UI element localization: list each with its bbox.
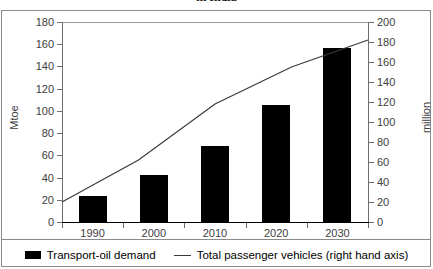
- left-tick-mark: [57, 200, 62, 201]
- left-tick-mark: [57, 66, 62, 67]
- left-tick-mark: [57, 111, 62, 112]
- left-tick-label: 20: [14, 195, 54, 206]
- legend-label-transport-oil-demand: Transport-oil demand: [47, 249, 156, 261]
- right-tick-label: 120: [377, 97, 417, 108]
- right-tick-mark: [369, 182, 374, 183]
- right-tick-mark: [369, 122, 374, 123]
- right-tick-label: 80: [377, 137, 417, 148]
- right-axis-title: million: [421, 88, 432, 148]
- chart-title: in India: [0, 0, 433, 4]
- bar-2030: [323, 48, 351, 222]
- right-tick-mark: [369, 62, 374, 63]
- left-tick-label: 160: [14, 39, 54, 50]
- left-tick-label: 100: [14, 106, 54, 117]
- left-tick-mark: [57, 178, 62, 179]
- legend-item-transport-oil-demand: Transport-oil demand: [25, 249, 156, 261]
- right-tick-mark: [369, 22, 374, 23]
- bar-1990: [79, 196, 107, 222]
- left-axis-title: Mtoe: [9, 88, 20, 148]
- chart-figure: in India 020406080100120140160180 020406…: [0, 0, 433, 269]
- left-tick-label: 140: [14, 61, 54, 72]
- right-tick-label: 20: [377, 197, 417, 208]
- legend-item-total-passenger-vehicles: Total passenger vehicles (right hand axi…: [174, 249, 409, 261]
- x-tick-label: 2010: [184, 228, 246, 239]
- bar-2010: [201, 146, 229, 222]
- right-tick-label: 60: [377, 157, 417, 168]
- left-tick-label: 120: [14, 84, 54, 95]
- right-tick-label: 180: [377, 37, 417, 48]
- plot-top-border: [62, 22, 369, 23]
- left-tick-mark: [57, 155, 62, 156]
- right-tick-mark: [369, 82, 374, 83]
- right-tick-mark: [369, 202, 374, 203]
- x-axis-line: [62, 222, 369, 223]
- left-tick-mark: [57, 89, 62, 90]
- right-tick-label: 140: [377, 77, 417, 88]
- right-tick-label: 100: [377, 117, 417, 128]
- bar-2000: [140, 175, 168, 222]
- x-tick-label: 2030: [306, 228, 368, 239]
- right-tick-mark: [369, 42, 374, 43]
- right-tick-mark: [369, 142, 374, 143]
- legend-divider: [1, 239, 431, 240]
- left-tick-mark: [57, 44, 62, 45]
- left-tick-label: 80: [14, 128, 54, 139]
- bar-swatch-icon: [25, 251, 41, 259]
- left-tick-label: 180: [14, 17, 54, 28]
- left-tick-mark: [57, 133, 62, 134]
- left-tick-label: 60: [14, 150, 54, 161]
- left-tick-label: 0: [14, 217, 54, 228]
- chart-legend: Transport-oil demand Total passenger veh…: [0, 244, 433, 266]
- right-tick-label: 200: [377, 17, 417, 28]
- right-tick-label: 40: [377, 177, 417, 188]
- right-tick-mark: [369, 222, 374, 223]
- right-tick-mark: [369, 162, 374, 163]
- x-tick-label: 2020: [245, 228, 307, 239]
- right-tick-label: 160: [377, 57, 417, 68]
- bar-2020: [262, 105, 290, 222]
- left-tick-label: 40: [14, 173, 54, 184]
- left-tick-mark: [57, 22, 62, 23]
- right-tick-label: 0: [377, 217, 417, 228]
- legend-label-total-passenger-vehicles: Total passenger vehicles (right hand axi…: [197, 249, 409, 261]
- x-tick-label: 2000: [123, 228, 185, 239]
- right-tick-mark: [369, 102, 374, 103]
- left-axis-line: [62, 22, 63, 223]
- x-tick-label: 1990: [62, 228, 124, 239]
- line-swatch-icon: [174, 255, 191, 256]
